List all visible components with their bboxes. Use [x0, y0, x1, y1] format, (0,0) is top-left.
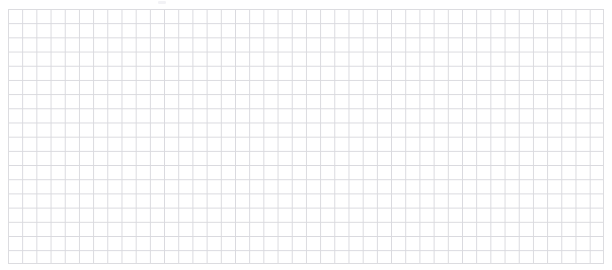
canvas-root: Empty grid plotting surface [0, 0, 612, 270]
grid-accessible-label: Empty grid plotting surface [0, 0, 1, 1]
chart-ylabel [0, 0, 1, 1]
plot-data-layer [8, 9, 604, 264]
chart-title [0, 0, 1, 1]
faint-top-mark-icon [158, 1, 166, 4]
chart-xlabel [0, 0, 1, 1]
